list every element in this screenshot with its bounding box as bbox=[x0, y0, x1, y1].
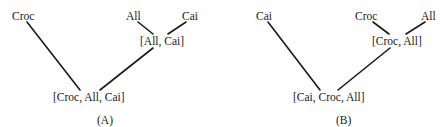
leaf-node: All bbox=[421, 11, 436, 23]
edge-b-all-inner bbox=[406, 22, 425, 34]
inner-node: [All, Cai] bbox=[140, 36, 184, 48]
tree-lines bbox=[0, 0, 444, 127]
edge-a-cai-inner bbox=[168, 22, 186, 34]
leaf-node: Croc bbox=[12, 11, 34, 23]
leaf-node: Croc bbox=[355, 11, 377, 23]
root-node: [Croc, All, Cai] bbox=[53, 92, 125, 104]
edge-a-inner-root bbox=[100, 48, 153, 90]
edge-b-cai-root bbox=[268, 22, 320, 90]
edge-b-inner-root bbox=[338, 48, 390, 90]
panel-caption: (A) bbox=[97, 115, 113, 127]
panel-caption: (B) bbox=[336, 115, 351, 127]
leaf-node: All bbox=[126, 11, 141, 23]
inner-node: [Croc, All] bbox=[372, 36, 422, 48]
edge-b-croc-inner bbox=[373, 22, 389, 34]
leaf-node: Cai bbox=[256, 11, 272, 23]
edge-a-all-inner bbox=[138, 22, 153, 34]
leaf-node: Cai bbox=[182, 11, 198, 23]
edge-a-croc-root bbox=[27, 22, 80, 90]
root-node: [Cai, Croc, All] bbox=[293, 92, 365, 104]
